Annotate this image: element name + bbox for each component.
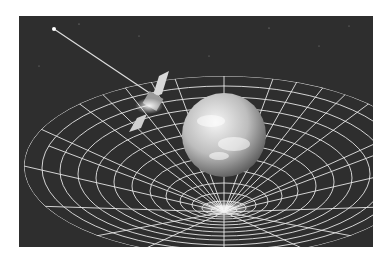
- starfield: [39, 23, 350, 66]
- light-beam: [54, 29, 154, 96]
- funnel-glow: [196, 200, 252, 216]
- spacetime-illustration: Illustration of spacetime curvature: Ear…: [19, 16, 373, 247]
- satellite: [129, 71, 169, 132]
- earth: [182, 93, 266, 177]
- beam-source-star: [52, 27, 56, 31]
